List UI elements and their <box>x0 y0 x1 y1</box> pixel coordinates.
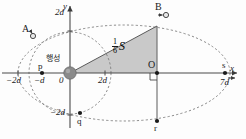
point-s-dot <box>223 71 227 75</box>
planet-highlight <box>66 69 70 73</box>
x-tick-label-2d: 2d <box>98 76 107 85</box>
area-symbol: S <box>119 39 125 54</box>
satellite-B-marker <box>163 12 168 17</box>
label-point-O: O <box>148 60 155 70</box>
area-fraction-denominator: 6 <box>112 47 118 55</box>
origin-label: 0 <box>59 76 64 85</box>
x-tick-label-negd: −d <box>34 76 45 85</box>
point-O-dot <box>155 71 159 75</box>
x-tick-label-neg2d: −2d <box>6 76 21 85</box>
satellite-A-marker <box>30 33 35 38</box>
diagram-svg <box>0 0 246 139</box>
x-axis-label: x <box>230 64 234 73</box>
label-point-A: A <box>22 24 29 34</box>
figure-canvas: y x 2d −2d −2d −d 2d 7d 0 A B p q r s O … <box>0 0 246 139</box>
label-point-p: p <box>38 62 43 71</box>
label-point-r: r <box>154 124 157 133</box>
y-tick-label-2d: 2d <box>55 8 64 17</box>
satellite-A-velocity-arrow <box>30 30 32 34</box>
x-tick-label-7d: 7d <box>220 78 229 87</box>
point-q-dot <box>78 111 82 115</box>
label-point-s: s <box>222 61 226 70</box>
y-tick-label-neg2d: −2d <box>50 108 65 117</box>
area-fraction-label: 1 6 S <box>112 38 125 55</box>
planet-body <box>64 67 76 79</box>
label-point-B: B <box>155 2 162 12</box>
label-point-q: q <box>77 117 82 126</box>
planet-label: 행성 <box>46 55 60 63</box>
